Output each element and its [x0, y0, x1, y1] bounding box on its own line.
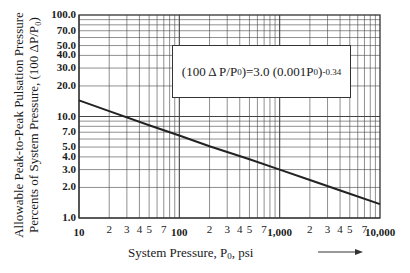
formula-mid: )=3.0 (0.001P	[242, 64, 314, 80]
formula-exponent: -0.34	[322, 67, 341, 77]
x-tick-label-major: 100	[171, 226, 188, 238]
x-axis-title-text: System Pressure, P	[128, 245, 227, 260]
y-axis-title: Allowable Peak-to-Peak Pulsation Pressur…	[11, 5, 41, 245]
x-axis-arrow-icon	[318, 249, 363, 255]
x-tick-label-minor: 2	[307, 223, 313, 235]
x-tick-label-minor: 5	[146, 223, 152, 235]
x-tick-label-minor: 2	[106, 223, 112, 235]
x-tick-label-minor: 3	[124, 223, 130, 235]
formula-annotation: (100 Δ P/P0)=3.0 (0.001P0)-0.34	[172, 45, 351, 98]
x-tick-label-minor: 5	[347, 223, 353, 235]
y-axis-title-line2: Percents of System Pressure, (100 ΔP/P₀)	[26, 5, 41, 245]
x-tick-label-minor: 3	[325, 223, 331, 235]
x-tick-label-minor: 7	[362, 223, 368, 235]
x-tick-label-minor: 4	[337, 223, 343, 235]
x-tick-label-major: 10,000	[365, 226, 395, 238]
x-tick-label-minor: 2	[207, 223, 213, 235]
x-tick-label-minor: 7	[261, 223, 267, 235]
x-tick-label-minor: 4	[237, 223, 243, 235]
x-tick-label-minor: 4	[137, 223, 143, 235]
x-tick-label-minor: 5	[247, 223, 253, 235]
x-tick-label-major: 1,000	[267, 226, 292, 238]
x-tick-label-minor: 3	[224, 223, 230, 235]
formula-prefix: (100 Δ P/P	[182, 64, 237, 80]
y-axis-title-line1: Allowable Peak-to-Peak Pulsation Pressur…	[11, 5, 26, 245]
x-tick-label-major: 10	[74, 226, 85, 238]
x-tick-label-minor: 7	[161, 223, 167, 235]
x-axis-title: System Pressure, P0, psi	[128, 245, 253, 261]
x-axis-title-unit: , psi	[232, 245, 254, 260]
